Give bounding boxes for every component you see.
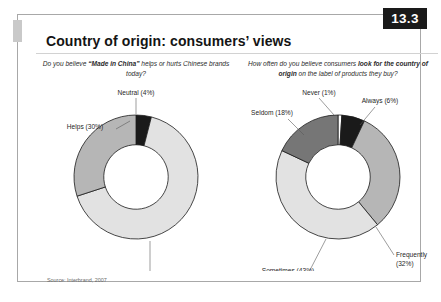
slice-label-seldom: Seldom (18%) xyxy=(251,109,293,117)
slice-label-frequently-pct: (32%) xyxy=(396,260,414,268)
figure-number-badge: 13.3 xyxy=(383,8,427,29)
chart-panel-right: How often do you believe consumers look … xyxy=(240,59,436,271)
question-right-part1: How often do you believe consumers xyxy=(248,60,358,67)
pie-slice-sometimes xyxy=(276,151,378,239)
source-note: Source: Interbrand, 2007 xyxy=(47,277,107,283)
slice-label-sometimes: Sometimes (43%) xyxy=(262,267,314,271)
slice-label-never: Never (1%) xyxy=(302,89,335,97)
chart-question-right: How often do you believe consumers look … xyxy=(240,59,436,79)
question-left-part2: helps or hurts Chinese brands today? xyxy=(126,60,229,77)
leader-sometimes xyxy=(310,239,326,270)
donut-chart-right: Never (1%)Always (6%)Frequently(32%)Some… xyxy=(240,81,436,271)
page-title: Country of origin: consumers’ views xyxy=(46,33,291,49)
chart-question-left: Do you believe “Made in China” helps or … xyxy=(38,59,234,79)
slice-label-always: Always (6%) xyxy=(362,97,399,105)
question-left-part1: Do you believe xyxy=(43,60,88,67)
leader-never xyxy=(319,98,334,115)
donut-chart-left: Neutral (4%)Hurts (66%)Helps (30%) xyxy=(38,81,234,271)
corner-accent-tab xyxy=(13,20,22,42)
chart-panel-left: Do you believe “Made in China” helps or … xyxy=(38,59,234,271)
leader-frequently xyxy=(376,227,394,255)
figure-panel: Country of origin: consumers’ views Do y… xyxy=(17,14,421,282)
slice-label-neutral: Neutral (4%) xyxy=(117,89,154,97)
slice-label-helps: Helps (30%) xyxy=(67,123,103,131)
question-left-emphasis: “Made in China” xyxy=(88,60,139,67)
question-right-part2: on the label of products they buy? xyxy=(297,70,398,77)
title-divider xyxy=(36,53,438,54)
slice-label-frequently: Frequently xyxy=(396,251,428,259)
